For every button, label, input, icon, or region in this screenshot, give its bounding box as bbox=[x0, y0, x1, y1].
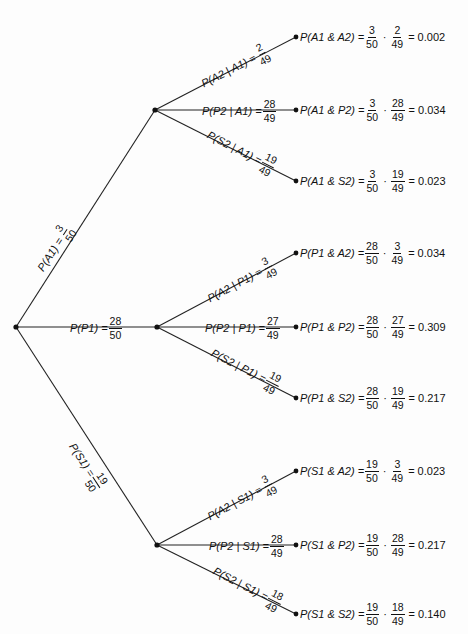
multiply-dot: · bbox=[383, 105, 387, 116]
fraction: 1950 bbox=[366, 533, 380, 557]
fraction: 1949 bbox=[391, 169, 405, 193]
fraction: 249 bbox=[390, 25, 404, 49]
multiply-dot: · bbox=[383, 540, 387, 551]
fraction: 350 bbox=[365, 25, 379, 49]
outcome-a1-p2: P(A1 & P2) = 350 · 2849 = 0.034 bbox=[300, 98, 449, 122]
fraction: 350 bbox=[366, 169, 380, 193]
fraction: 349 bbox=[390, 459, 404, 483]
fraction: 2850 bbox=[366, 315, 380, 339]
fraction: 2850 bbox=[366, 386, 380, 410]
fraction: 2749 bbox=[266, 316, 280, 340]
outcome-p1-s2: P(P1 & S2) = 2850 · 1949 = 0.217 bbox=[300, 386, 449, 410]
outcome-a1-s2: P(A1 & S2) = 350 · 1949 = 0.023 bbox=[300, 169, 449, 193]
multiply-dot: · bbox=[383, 176, 387, 187]
multiply-dot: · bbox=[383, 609, 387, 620]
branch-label-p1: P(P1) = 2850 bbox=[70, 316, 123, 340]
branch-label-p2-given-p1: P(P2 | P1) = 2749 bbox=[205, 316, 281, 340]
multiply-dot: · bbox=[383, 322, 387, 333]
outcome-s1-s2: P(S1 & S2) = 1950 · 1849 = 0.140 bbox=[300, 602, 449, 626]
fraction: 349 bbox=[390, 241, 404, 265]
fraction: 1849 bbox=[391, 602, 405, 626]
fraction: 1950 bbox=[365, 459, 379, 483]
fraction: 2849 bbox=[391, 533, 405, 557]
multiply-dot: · bbox=[383, 393, 387, 404]
outcome-s1-a2: P(S1 & A2) = 1950 · 349 = 0.023 bbox=[300, 459, 448, 483]
multiply-dot: · bbox=[383, 248, 387, 259]
fraction: 2849 bbox=[270, 534, 284, 558]
fraction: 1949 bbox=[391, 386, 405, 410]
fraction: 2850 bbox=[365, 241, 379, 265]
fraction: 2749 bbox=[391, 315, 405, 339]
multiply-dot: · bbox=[383, 466, 387, 477]
fraction: 1950 bbox=[366, 602, 380, 626]
outcome-p1-a2: P(P1 & A2) = 2850 · 349 = 0.034 bbox=[300, 241, 448, 265]
outcome-a1-a2: P(A1 & A2) = 350 · 249 = 0.002 bbox=[300, 25, 448, 49]
fraction: 2849 bbox=[391, 98, 405, 122]
fraction: 2850 bbox=[109, 316, 123, 340]
fraction: 2849 bbox=[263, 99, 277, 123]
branch-label-p2-given-a1: P(P2 | A1) = 2849 bbox=[202, 99, 277, 123]
outcome-s1-p2: P(S1 & P2) = 1950 · 2849 = 0.217 bbox=[300, 533, 449, 557]
multiply-dot: · bbox=[383, 32, 387, 43]
branch-label-p2-given-s1: P(P2 | S1) = 2849 bbox=[209, 534, 285, 558]
outcome-p1-p2: P(P1 & P2) = 2850 · 2749 = 0.309 bbox=[300, 315, 449, 339]
fraction: 350 bbox=[366, 98, 380, 122]
